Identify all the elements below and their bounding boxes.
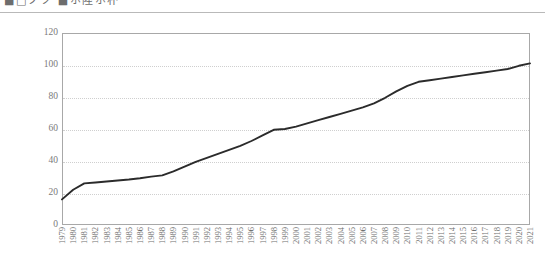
x-axis-tick-label: 2018 [493,227,502,244]
x-axis-tick-label: 2003 [325,227,334,244]
x-axis-tick-label: 1981 [80,227,89,244]
x-axis-tick-label: 1979 [58,227,67,244]
x-axis-tick-label: 2019 [504,227,513,244]
page-title: ■□ノツ ■ホ陸ホ朴 [4,0,120,7]
x-axis-tick-label: 2013 [437,227,446,244]
x-axis-tick-label: 1986 [136,227,145,244]
x-axis-tick-label: 2001 [303,227,312,244]
x-axis-tick-label: 2020 [515,227,524,244]
x-axis-tick-label: 2014 [448,227,457,244]
x-axis-tick-label: 2002 [314,227,323,244]
x-axis-tick-label: 2004 [337,227,346,244]
x-axis-tick-label: 1989 [169,227,178,244]
y-axis-tick-label: 120 [28,28,58,38]
y-axis-tick-label: 100 [28,60,58,70]
x-axis-tick-label: 1988 [158,227,167,244]
x-axis-tick-label: 1980 [69,227,78,244]
x-axis-tick-label: 1990 [181,227,190,244]
y-axis-tick-label: 20 [28,188,58,198]
y-axis: 020406080100120 [26,33,58,225]
y-axis-tick-label: 40 [28,156,58,166]
y-axis-tick-label: 60 [28,124,58,134]
x-axis-tick-label: 1998 [270,227,279,244]
x-axis-tick-label: 1995 [236,227,245,244]
x-axis-tick-label: 2000 [292,227,301,244]
y-axis-tick-label: 80 [28,92,58,102]
x-axis-tick-label: 2008 [381,227,390,244]
x-axis-tick-label: 2021 [526,227,535,244]
x-axis-tick-label: 2017 [481,227,490,244]
x-axis-tick-label: 1996 [247,227,256,244]
x-axis-tick-label: 1992 [203,227,212,244]
x-axis-tick-label: 1991 [192,227,201,244]
x-axis-tick-label: 2006 [359,227,368,244]
x-axis-tick-label: 2011 [415,227,424,244]
x-axis-tick-label: 1982 [91,227,100,244]
x-axis-tick-label: 2015 [459,227,468,244]
x-axis: 1979198019811982198319841985198619871988… [62,227,530,274]
chart-figure: 020406080100120 197919801981198219831984… [0,14,545,274]
x-axis-tick-label: 2009 [392,227,401,244]
header-divider [0,12,545,13]
x-axis-tick-label: 2005 [348,227,357,244]
x-axis-tick-label: 1994 [225,227,234,244]
x-axis-tick-label: 1983 [103,227,112,244]
x-axis-tick-label: 1993 [214,227,223,244]
x-axis-tick-label: 2012 [426,227,435,244]
x-axis-tick-label: 1999 [281,227,290,244]
y-axis-tick-label: 0 [28,220,58,230]
x-axis-tick-label: 2007 [370,227,379,244]
x-axis-tick-label: 2016 [470,227,479,244]
x-axis-tick-label: 1985 [125,227,134,244]
x-axis-tick-label: 1987 [147,227,156,244]
data-series-line [62,33,530,225]
x-axis-tick-label: 2010 [403,227,412,244]
x-axis-tick-label: 1984 [114,227,123,244]
x-axis-tick-label: 1997 [259,227,268,244]
